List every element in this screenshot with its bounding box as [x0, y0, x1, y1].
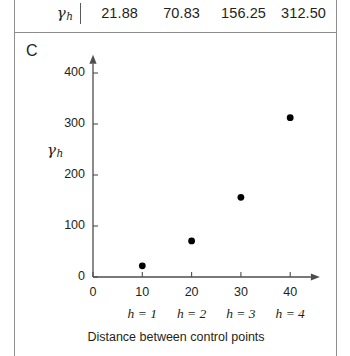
x-secondary-label: h = 2	[165, 306, 219, 322]
data-point	[188, 237, 195, 244]
x-axis-caption: Distance between control points	[43, 330, 309, 344]
gamma-subscript: h	[66, 10, 73, 22]
table-cell: 156.25	[200, 5, 266, 21]
y-axis-title: γh	[47, 141, 63, 159]
x-axis-arrow	[311, 273, 320, 280]
tick-marks-layer	[93, 73, 290, 277]
x-tick-label: 40	[275, 285, 305, 299]
y-tick-label: 0	[51, 269, 85, 283]
x-tick-label: 20	[177, 285, 207, 299]
table-row-label: γh	[57, 4, 73, 22]
table-cell: 70.83	[138, 5, 200, 21]
gamma-symbol: γ	[47, 141, 56, 159]
data-point	[287, 114, 294, 121]
data-points-layer	[139, 114, 294, 269]
y-tick-label: 200	[51, 167, 85, 181]
x-secondary-label: h = 1	[115, 306, 169, 322]
panel-c: C 0100200300400010203040γhh = 1h = 2h = …	[15, 33, 336, 356]
scatter-plot: 0100200300400010203040γhh = 1h = 2h = 3h…	[15, 33, 336, 356]
table-row: γh 21.88 70.83 156.25 312.50	[14, 0, 336, 26]
axes-layer	[89, 55, 319, 281]
frame-right-border	[336, 0, 337, 356]
table-cell: 312.50	[266, 5, 326, 21]
table-strip: γh 21.88 70.83 156.25 312.50	[14, 0, 336, 32]
data-point	[139, 262, 146, 269]
y-tick-label: 300	[51, 116, 85, 130]
x-tick-label: 10	[127, 285, 157, 299]
x-tick-label: 0	[78, 285, 108, 299]
x-secondary-label: h = 4	[263, 306, 317, 322]
x-tick-label: 30	[226, 285, 256, 299]
y-tick-label: 400	[51, 65, 85, 79]
gamma-subscript: h	[56, 147, 63, 159]
gamma-symbol: γ	[57, 4, 66, 22]
x-secondary-label: h = 3	[214, 306, 268, 322]
table-cell: 21.88	[90, 5, 138, 21]
data-point	[238, 194, 245, 201]
y-tick-label: 100	[51, 218, 85, 232]
figure-container: γh 21.88 70.83 156.25 312.50 C 010020030…	[0, 0, 350, 356]
table-row-separator	[80, 3, 81, 24]
y-axis-arrow	[89, 55, 96, 64]
